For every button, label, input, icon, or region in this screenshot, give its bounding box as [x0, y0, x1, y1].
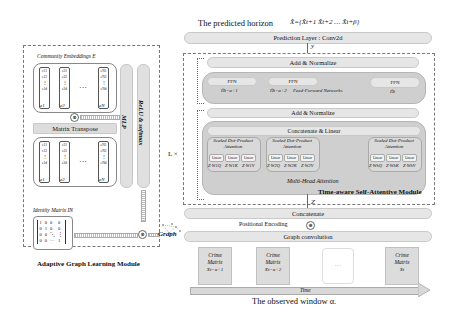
label-e2-bottom: e2 — [60, 177, 65, 182]
z-label: Z — [311, 198, 315, 206]
linear-3-v: Linear — [402, 154, 417, 162]
ellipsis: ··· — [79, 83, 87, 92]
add-normalize-top: Add & Normalize — [207, 57, 419, 68]
linear-2-v: Linear — [300, 154, 315, 162]
adaptive-graph-learning-title: Adaptive Graph Learning Module — [37, 260, 140, 268]
predicted-horizon-formula: X̂={X̂t+1 X̂t+2 … X̂t+β} — [290, 18, 359, 26]
add-normalize-bottom: Add & Normalize — [207, 108, 419, 118]
arrow-identity-to-multiply — [74, 233, 138, 238]
concat-linear-bar: Concatenate & Linear — [207, 126, 421, 136]
formula-1-k: Z·W1K — [225, 163, 238, 168]
multiply-operator-icon-2: ⊗ — [138, 230, 147, 239]
ffn-sub-2: Ĥt−α+2 — [270, 88, 287, 93]
multiply-operator-icon: ⊗ — [70, 113, 79, 122]
ffn-block-3: FFN — [370, 77, 420, 88]
predicted-horizon-label: The predicted horizon — [198, 18, 273, 28]
formula-3-v: Z·WhV — [403, 163, 415, 168]
y-label: y — [311, 42, 314, 50]
ffn-sub-3: Ĥt — [390, 89, 395, 94]
relu-softmax-label: ReLU & softmax — [138, 100, 145, 146]
arrow-down-relu — [141, 190, 146, 222]
linear-1-v: Linear — [241, 154, 256, 162]
formula-2-k: Z·W2K — [284, 163, 297, 168]
plus-operator-icon: ⊕ — [306, 221, 315, 230]
linear-2-k: Linear — [284, 154, 299, 162]
arrow-z-up — [307, 194, 308, 208]
time-label: Time — [300, 287, 311, 293]
linear-1-q: Linear — [209, 154, 224, 162]
identity-matrix-label: Identity Matrix IN — [33, 207, 73, 213]
label-e1-bottom: e1 — [40, 177, 45, 182]
linear-2-q: Linear — [268, 154, 283, 162]
concatenate-bar: Concatenate — [184, 208, 432, 219]
community-embeddings-label: Community Embeddings E — [37, 53, 96, 59]
crime-matrix-t: Crime Matrix Xt — [385, 247, 419, 285]
mlp-label: MLP — [121, 115, 128, 129]
ffn-block-1: FFN — [207, 77, 257, 86]
sdpa-title-2: Scaled Dot-Product Attention — [269, 138, 315, 150]
sdpa-title-1: Scaled Dot-Product Attention — [210, 138, 256, 150]
linear-3-k: Linear — [386, 154, 401, 162]
linear-3-q: Linear — [370, 154, 385, 162]
matrix-transpose-bar: Matrix Transpose — [33, 123, 117, 134]
time-arrow-head-icon — [418, 283, 430, 297]
formula-1-q: Z·W1Q — [208, 163, 221, 168]
ffn-sub-1: Ĥt−α+1 — [221, 88, 238, 93]
prediction-layer-bar: Prediction Layer : Conv2d — [184, 32, 432, 44]
graph-label: Graph — [158, 230, 177, 238]
sdpa-title-3: Scaled Dot-Product Attention — [371, 138, 417, 150]
l-times-label: L × — [168, 150, 178, 158]
arrow-to-mlp — [80, 115, 120, 120]
formula-3-q: Z·WhQ — [369, 163, 382, 168]
time-aware-module-title: Time-aware Self-Attentive Module — [318, 188, 422, 196]
ellipsis: ··· — [79, 157, 87, 166]
crime-matrix-ellipsis: ··· — [322, 248, 354, 284]
label-e2: e2 — [60, 103, 65, 108]
label-eN-bottom: eN — [99, 177, 105, 182]
formula-2-v: Z·W2V — [301, 163, 313, 168]
ffn-block-2: FFN — [268, 77, 318, 86]
graph-convolution-bar: Graph convolution — [184, 231, 432, 242]
crime-matrix-2: Crime Matrix Xt−α+2 — [256, 247, 290, 285]
positional-encoding-label: Positional Encoding — [239, 221, 288, 227]
label-e1: e1 — [40, 103, 45, 108]
observed-window-label: The observed window α. — [252, 296, 336, 306]
linear-1-k: Linear — [225, 154, 240, 162]
crime-matrix-1: Crime Matrix Xt−α+1 — [198, 247, 232, 285]
arrow-y-up — [307, 43, 308, 53]
identity-matrix-box: 1000 0100 00⋱⋮ 00···1 — [33, 216, 73, 250]
formula-2-q: Z·W2Q — [267, 163, 280, 168]
ffn-caption: Feed-Forward Networks — [293, 88, 342, 93]
multi-head-attention-label: Multi-Head Attention — [287, 178, 338, 184]
label-eN: eN — [99, 103, 105, 108]
formula-3-k: Z·WhK — [386, 163, 399, 168]
formula-1-v: Z·W1V — [242, 163, 254, 168]
